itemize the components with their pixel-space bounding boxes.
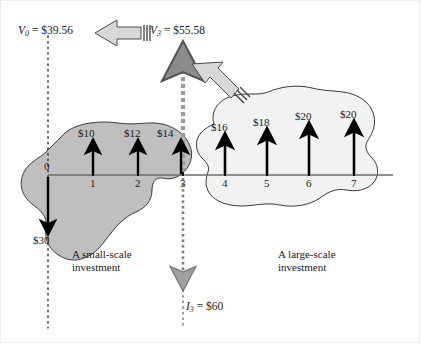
figure-container: V0 = $39.56 V3 = $55.58 I3 = $60 $10 $12… — [0, 0, 421, 344]
caption-small-scale: A small-scale investment — [72, 248, 132, 274]
cash-label-t1: $10 — [78, 127, 95, 139]
cash-flow-diagram-canvas — [0, 0, 421, 344]
cash-label-t7: $20 — [340, 108, 357, 120]
tick-label-2: 2 — [135, 177, 141, 189]
tick-label-3: 3 — [180, 177, 186, 189]
cash-label-t2: $12 — [124, 127, 141, 139]
caption-large-scale-line1: A large-scale — [278, 248, 336, 261]
label-v0: V0 = $39.56 — [18, 24, 73, 38]
block-left-arrow-icon — [95, 20, 150, 46]
label-v0-amount: $39.56 — [41, 24, 73, 36]
tick-label-6: 6 — [306, 177, 312, 189]
label-v3: V3 = $55.58 — [150, 24, 205, 38]
caption-large-scale: A large-scale investment — [278, 248, 336, 274]
label-v3-amount: $55.58 — [173, 24, 205, 36]
caption-large-scale-line2: investment — [278, 261, 336, 274]
tick-label-1: 1 — [90, 177, 96, 189]
tick-label-5: 5 — [264, 177, 270, 189]
cash-label-t5: $18 — [253, 116, 270, 128]
label-i3-amount: $60 — [206, 300, 223, 312]
caption-small-scale-line1: A small-scale — [72, 248, 132, 261]
cash-label-t4: $16 — [211, 121, 228, 133]
label-i3: I3 = $60 — [186, 300, 223, 314]
tick-label-0: 0 — [44, 160, 50, 172]
cash-label-t3: $14 — [157, 127, 174, 139]
label-v0-symbol: V — [18, 24, 25, 36]
label-v3-eq: = — [161, 24, 173, 36]
tick-label-4: 4 — [222, 177, 228, 189]
label-i3-eq: = — [194, 300, 206, 312]
cash-label-t0: $30 — [33, 234, 50, 246]
label-v3-symbol: V — [150, 24, 157, 36]
label-v0-eq: = — [29, 24, 41, 36]
cash-label-t6: $20 — [295, 110, 312, 122]
caption-small-scale-line2: investment — [72, 261, 132, 274]
tick-label-7: 7 — [351, 177, 357, 189]
